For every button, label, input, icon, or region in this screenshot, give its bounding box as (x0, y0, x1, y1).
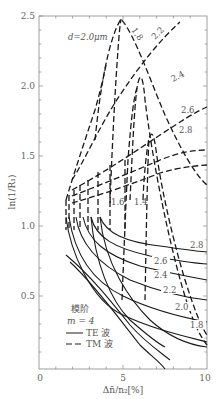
y-tick-label: 0.5 (21, 291, 36, 301)
tm-label-1.8: 1.8 (129, 25, 145, 42)
te-label-2.2: 2.2 (163, 285, 177, 295)
x-tick-label: 5 (120, 373, 126, 383)
te-label-2.4: 2.4 (154, 270, 168, 280)
te-label-1.8: 1.8 (190, 320, 204, 330)
tm-label-2.6: 2.6 (181, 105, 195, 115)
tm-curves (66, 19, 207, 345)
legend: 模阶 m = 4 TE 波 TM 波 (66, 303, 113, 349)
y-axis-title: ln(1/R₁) (7, 175, 17, 210)
tm-curve-edge (66, 65, 106, 200)
te-curve-2.2 (76, 217, 207, 300)
tm-label-2.4: 2.4 (169, 69, 186, 84)
tm-curve-2.2 (72, 22, 180, 180)
tm-curve-1.6 (130, 77, 207, 345)
y-tick-label: 1.5 (21, 151, 36, 161)
legend-tm-label: TM 波 (86, 338, 113, 349)
legend-te-label: TE 波 (86, 327, 110, 338)
legend-mode-order: m = 4 (67, 316, 95, 326)
y-tick-label: 1.0 (21, 221, 36, 231)
te-label-2.8: 2.8 (190, 240, 204, 250)
legend-title: 模阶 (71, 303, 89, 314)
tm-label-2.2: 2.2 (149, 25, 166, 42)
y-tick-label: 2.5 (21, 11, 36, 21)
x-axis-title: Δn̄/n₂[%] (103, 385, 143, 395)
tm-curve-1.8-left (110, 19, 121, 203)
x-tick-label: 10 (199, 373, 211, 383)
y-tick-label: 2.0 (21, 81, 36, 91)
te-label-2.0: 2.0 (175, 302, 189, 312)
tm-curve-1.6-left (122, 88, 137, 300)
chart: 2.5 2.0 1.5 1.0 0.5 0 5 10 Δn̄/n₂[%] ln(… (0, 0, 219, 399)
tm-curve-2.6 (72, 150, 207, 196)
tm-label-2.8: 2.8 (179, 125, 193, 135)
tm-label-1.6: 1.6 (111, 197, 125, 207)
x-tick-label: 0 (37, 373, 43, 383)
tm-label-1.4: 1.4 (134, 197, 148, 207)
tm-curve-1.8 (95, 19, 207, 185)
thickness-annotation: d=2.0μm (68, 32, 108, 42)
te-label-2.6: 2.6 (154, 256, 168, 266)
